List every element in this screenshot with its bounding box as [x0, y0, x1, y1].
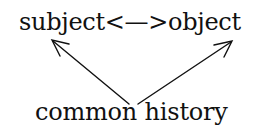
arrow-to-subject	[53, 41, 129, 104]
arrow-to-object	[138, 42, 231, 104]
common-history-label: common history	[35, 100, 228, 124]
